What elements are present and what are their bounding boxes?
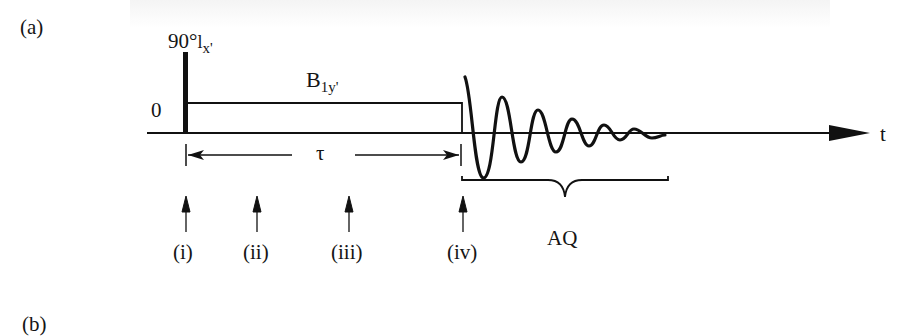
arrow-up-icon bbox=[253, 196, 261, 212]
90-degree-pulse-bar bbox=[183, 52, 188, 134]
acquisition-label: AQ bbox=[547, 228, 577, 249]
panel-b-label: (b) bbox=[22, 314, 47, 335]
time-axis-label: t bbox=[880, 124, 886, 145]
time-point-label-ii: (ii) bbox=[243, 242, 269, 263]
acquisition-brace bbox=[462, 176, 668, 197]
arrow-up-icon bbox=[345, 196, 353, 212]
spin-lock-pulse bbox=[188, 103, 462, 133]
pulse-angle: 90° bbox=[168, 29, 197, 53]
time-point-label-iii: (iii) bbox=[331, 242, 363, 263]
spin-lock-symbol: B bbox=[306, 67, 321, 92]
spin-lock-label: B1y' bbox=[306, 69, 338, 91]
time-axis-arrowhead-icon bbox=[829, 125, 870, 141]
time-point-arrows bbox=[182, 196, 467, 232]
arrow-up-icon bbox=[459, 196, 467, 212]
fid-signal bbox=[465, 77, 665, 178]
zero-level-label: 0 bbox=[151, 100, 162, 121]
time-point-label-i: (i) bbox=[173, 242, 193, 263]
pulse-label: 90°lx' bbox=[168, 31, 213, 52]
time-point-label-iv: (iv) bbox=[447, 242, 477, 263]
arrow-up-icon bbox=[182, 196, 190, 212]
pulse-axis-subscript: x' bbox=[202, 40, 212, 56]
panel-a-label: (a) bbox=[20, 17, 43, 38]
spin-lock-subscript: 1y' bbox=[321, 79, 339, 95]
tau-label: τ bbox=[316, 143, 324, 164]
